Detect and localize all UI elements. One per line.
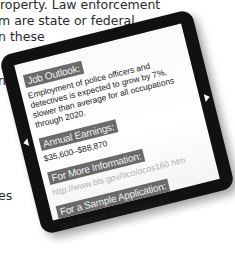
bg-line: property. Law enforcement — [0, 0, 160, 13]
bg-line: n these — [0, 29, 45, 45]
bg-line: es — [0, 188, 12, 204]
